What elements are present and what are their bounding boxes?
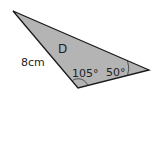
side-length-label: 8cm xyxy=(21,56,45,69)
triangle-figure: D 8cm 105° 50° xyxy=(0,0,156,149)
triangle-diagram: D 8cm 105° 50° xyxy=(0,0,156,149)
shape-name-label: D xyxy=(58,42,67,56)
angle-label-right: 50° xyxy=(106,66,126,79)
angle-label-bottom: 105° xyxy=(72,67,99,80)
